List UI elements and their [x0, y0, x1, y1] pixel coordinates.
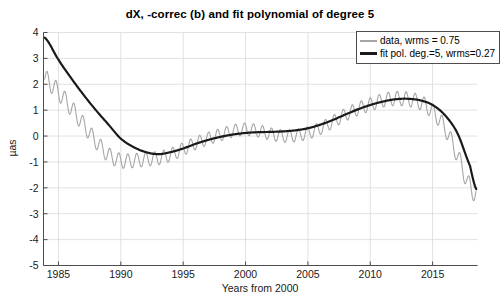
x-tick-label: 1990: [109, 268, 133, 280]
legend-label-fit: fit pol. deg.=5, wrms=0.27: [380, 47, 495, 60]
legend: data, wrms = 0.75 fit pol. deg.=5, wrms=…: [356, 31, 500, 64]
x-tick-label: 2010: [359, 268, 383, 280]
tick-marks: [44, 33, 433, 266]
legend-swatch-fit-icon: [360, 52, 377, 55]
x-tick-label: 2005: [296, 268, 320, 280]
x-tick-label: 1995: [171, 268, 195, 280]
y-tick-label: -1: [29, 156, 38, 168]
tick-labels: 1985199019952000200520102015-5-4-3-2-101…: [29, 26, 444, 279]
legend-item-fit: fit pol. deg.=5, wrms=0.27: [360, 47, 495, 60]
y-tick-label: 2: [33, 78, 39, 90]
chart-figure: dX, -correc (b) and fit polynomial of de…: [0, 0, 500, 306]
legend-label-data: data, wrms = 0.75: [380, 34, 460, 47]
x-tick-label: 2000: [234, 268, 258, 280]
y-tick-label: -2: [29, 182, 38, 194]
y-tick-label: -3: [29, 208, 38, 220]
legend-swatch-data-icon: [360, 40, 377, 42]
y-tick-label: -5: [29, 259, 38, 271]
legend-item-data: data, wrms = 0.75: [360, 34, 495, 47]
y-tick-label: 4: [33, 26, 39, 38]
x-tick-label: 2015: [421, 268, 445, 280]
y-axis-title: µas: [6, 139, 18, 156]
y-tick-label: -4: [29, 233, 38, 245]
y-tick-label: 0: [33, 130, 39, 142]
x-tick-label: 1985: [47, 268, 71, 280]
y-tick-label: 1: [33, 104, 39, 116]
y-tick-label: 3: [33, 52, 39, 64]
x-axis-title: Years from 2000: [222, 282, 299, 294]
